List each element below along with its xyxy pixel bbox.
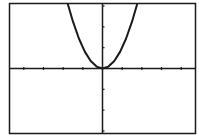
graph-plot (0, 0, 199, 140)
calculator-graph-screen (0, 0, 199, 140)
